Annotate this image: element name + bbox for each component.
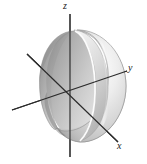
axis-label-y: y [128, 63, 132, 73]
figure-canvas [0, 0, 147, 164]
axis-label-x: x [117, 141, 121, 151]
axis-label-z: z [63, 1, 67, 11]
math-figure-3d-surface: z y x [0, 0, 147, 164]
